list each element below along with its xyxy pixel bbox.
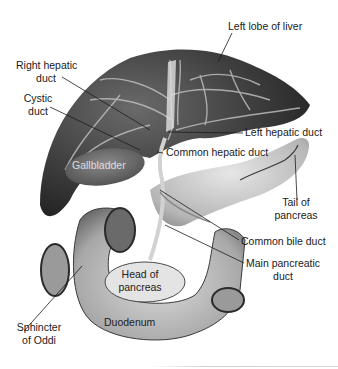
label-sphincter-of-oddi-line1: Sphincter xyxy=(14,321,64,334)
label-tail-of-pancreas: Tail of pancreas xyxy=(272,196,320,221)
label-head-of-pancreas: Head of pancreas xyxy=(115,268,165,293)
label-tail-of-pancreas-line2: pancreas xyxy=(272,209,320,222)
label-main-pancreatic-duct-line1: Main pancreatic xyxy=(246,257,320,270)
duodenum-opening-right xyxy=(212,288,244,312)
anatomy-illustration xyxy=(0,0,338,369)
label-left-lobe-of-liver: Left lobe of liver xyxy=(228,20,302,33)
label-main-pancreatic-duct: Main pancreatic duct xyxy=(246,257,320,282)
label-right-hepatic-duct-line2: duct xyxy=(16,72,76,85)
label-tail-of-pancreas-line1: Tail of xyxy=(272,196,320,209)
label-duodenum: Duodenum xyxy=(104,316,155,329)
label-cystic-duct: Cystic duct xyxy=(16,92,60,117)
duodenum-opening-left xyxy=(41,244,69,296)
label-sphincter-of-oddi: Sphincter of Oddi xyxy=(14,321,64,346)
label-main-pancreatic-duct-line2: duct xyxy=(246,270,320,283)
bottom-rule-divider xyxy=(150,366,338,367)
label-head-of-pancreas-line1: Head of xyxy=(115,268,165,281)
label-left-hepatic-duct: Left hepatic duct xyxy=(245,126,322,139)
label-gallbladder: Gallbladder xyxy=(72,159,126,172)
label-common-bile-duct: Common bile duct xyxy=(241,235,326,248)
label-cystic-duct-line1: Cystic xyxy=(16,92,60,105)
label-common-hepatic-duct: Common hepatic duct xyxy=(166,146,268,159)
label-right-hepatic-duct-line1: Right hepatic xyxy=(16,59,76,72)
label-head-of-pancreas-line2: pancreas xyxy=(115,281,165,294)
anatomy-diagram: Left lobe of liver Right hepatic duct Cy… xyxy=(0,0,338,369)
label-cystic-duct-line2: duct xyxy=(16,105,60,118)
duodenum-opening-upper xyxy=(105,208,135,252)
label-sphincter-of-oddi-line2: of Oddi xyxy=(14,334,64,347)
label-right-hepatic-duct: Right hepatic duct xyxy=(16,59,76,84)
